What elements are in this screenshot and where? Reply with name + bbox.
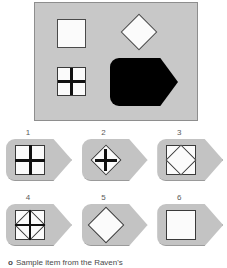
option-tile-4[interactable] [6, 204, 72, 246]
option-tile-5[interactable] [82, 204, 148, 246]
option-cell-1[interactable]: 1 [0, 128, 76, 193]
option-number-1: 1 [0, 128, 56, 138]
options-row-2: 4 5 6 [0, 193, 227, 258]
option-number-4: 4 [0, 193, 56, 203]
option-number-5: 5 [76, 193, 132, 203]
option-number-3: 3 [151, 128, 207, 138]
option-2-cross-horizontal [95, 159, 117, 162]
option-art-6 [164, 208, 198, 242]
option-art-3 [164, 143, 198, 177]
option-4-cross-horizontal [15, 224, 45, 226]
cross-horizontal-bar [58, 80, 85, 83]
option-cell-6[interactable]: 6 [151, 193, 227, 258]
stimulus-square-quartered [57, 67, 86, 96]
option-tile-3[interactable] [157, 139, 223, 181]
stimulus-diamond-plain [121, 14, 158, 51]
options-row-1: 1 2 3 [0, 128, 227, 193]
option-cell-4[interactable]: 4 [0, 193, 76, 258]
option-cell-2[interactable]: 2 [76, 128, 152, 193]
answer-options: 1 2 3 [0, 128, 227, 258]
figure-caption: oSample item from the Raven's [8, 258, 227, 268]
option-5-diamond [87, 207, 124, 244]
option-art-5 [89, 208, 123, 242]
option-tile-2[interactable] [82, 139, 148, 181]
option-art-1 [13, 143, 47, 177]
option-number-6: 6 [151, 193, 207, 203]
option-tile-1[interactable] [6, 139, 72, 181]
option-cell-3[interactable]: 3 [151, 128, 227, 193]
stimulus-square-plain [57, 19, 86, 48]
caption-bullet-marker: o [8, 258, 13, 268]
caption-text: Sample item from the Raven's [16, 258, 123, 267]
stimulus-tag-black [110, 58, 178, 106]
option-number-2: 2 [76, 128, 132, 138]
option-art-4 [13, 208, 47, 242]
option-1-cross-horizontal [15, 159, 45, 162]
option-cell-5[interactable]: 5 [76, 193, 152, 258]
option-6-square [166, 210, 196, 240]
option-art-2 [89, 143, 123, 177]
option-tile-6[interactable] [157, 204, 223, 246]
stimulus-panel [34, 2, 198, 121]
